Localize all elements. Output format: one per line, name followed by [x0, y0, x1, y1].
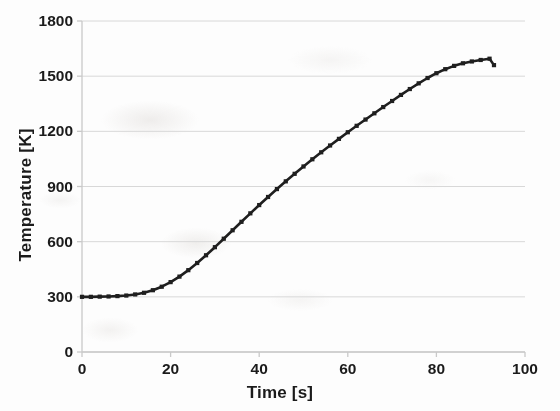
chart-figure: Temperature [K] Time [s] 030060090012001…	[0, 0, 560, 411]
series-marker	[213, 245, 217, 249]
series-marker	[425, 76, 429, 80]
y-tick-label-1800: 1800	[7, 12, 73, 30]
series-marker	[328, 143, 332, 147]
series-marker	[80, 295, 84, 299]
y-tick-label-900: 900	[7, 178, 73, 196]
data-series-group	[80, 57, 496, 299]
x-tick-label-40: 40	[229, 360, 289, 378]
x-axis-title: Time [s]	[0, 383, 560, 403]
series-marker	[337, 137, 341, 141]
series-marker	[98, 295, 102, 299]
series-marker	[275, 187, 279, 191]
y-tick-label-0: 0	[7, 343, 73, 361]
series-marker	[434, 71, 438, 75]
series-marker	[222, 237, 226, 241]
series-marker	[177, 275, 181, 279]
series-marker	[408, 87, 412, 91]
series-marker	[363, 117, 367, 121]
series-marker	[124, 293, 128, 297]
series-marker	[487, 57, 491, 61]
series-marker	[195, 261, 199, 265]
series-marker	[133, 292, 137, 296]
series-marker	[470, 59, 474, 63]
series-marker	[186, 268, 190, 272]
series-marker	[417, 81, 421, 85]
series-marker	[266, 195, 270, 199]
series-marker	[443, 67, 447, 71]
series-marker	[248, 211, 252, 215]
series-marker	[319, 150, 323, 154]
plot-canvas	[0, 0, 560, 411]
series-marker	[115, 294, 119, 298]
series-marker	[169, 280, 173, 284]
series-marker	[151, 288, 155, 292]
y-tick-label-1200: 1200	[7, 122, 73, 140]
series-marker	[106, 294, 110, 298]
tickmarks-group	[77, 21, 525, 357]
series-marker	[479, 58, 483, 62]
series-marker	[142, 291, 146, 295]
series-marker	[346, 130, 350, 134]
series-marker	[452, 64, 456, 68]
series-marker	[492, 63, 496, 67]
x-tick-label-100: 100	[495, 360, 555, 378]
x-tick-label-80: 80	[406, 360, 466, 378]
series-marker	[89, 295, 93, 299]
series-marker	[310, 157, 314, 161]
series-marker	[284, 179, 288, 183]
series-marker	[257, 203, 261, 207]
series-marker	[301, 164, 305, 168]
series-marker	[231, 228, 235, 232]
series-marker	[461, 61, 465, 65]
series-marker	[390, 99, 394, 103]
series-marker	[160, 285, 164, 289]
series-marker	[372, 111, 376, 115]
gridlines-group	[82, 21, 525, 352]
x-tick-label-0: 0	[52, 360, 112, 378]
x-tick-label-20: 20	[141, 360, 201, 378]
series-marker	[381, 105, 385, 109]
y-tick-label-600: 600	[7, 233, 73, 251]
series-marker	[399, 93, 403, 97]
series-marker	[239, 220, 243, 224]
series-marker	[293, 172, 297, 176]
series-line-0	[82, 59, 494, 297]
series-marker	[355, 124, 359, 128]
y-tick-label-1500: 1500	[7, 67, 73, 85]
series-marker	[204, 253, 208, 257]
y-tick-label-300: 300	[7, 288, 73, 306]
x-tick-label-60: 60	[318, 360, 378, 378]
